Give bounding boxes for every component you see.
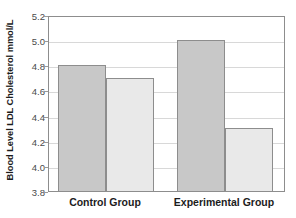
y-axis-tick-labels: 3.84.04.24.44.64.85.05.2 <box>20 0 48 218</box>
bars-layer <box>49 17 284 191</box>
bar <box>58 65 106 191</box>
y-tick-mark <box>44 167 48 168</box>
x-axis-category-label: Control Group <box>69 196 141 208</box>
x-axis-category-label: Experimental Group <box>174 196 274 208</box>
bar <box>225 128 273 191</box>
bar-chart: Blood Level LDL Cholesterol mmol/L 3.84.… <box>0 0 296 218</box>
y-tick-mark <box>44 192 48 193</box>
x-axis-category-labels: Control GroupExperimental Group <box>48 194 285 216</box>
plot-area <box>48 16 285 192</box>
y-tick-mark <box>44 16 48 17</box>
y-tick-mark <box>44 117 48 118</box>
y-axis-title-text: Blood Level LDL Cholesterol mmol/L <box>5 20 15 181</box>
y-tick-mark <box>44 142 48 143</box>
y-tick-mark <box>44 66 48 67</box>
bar <box>177 40 225 191</box>
y-axis-title: Blood Level LDL Cholesterol mmol/L <box>0 0 20 200</box>
y-tick-mark <box>44 41 48 42</box>
bar <box>106 78 154 191</box>
y-tick-mark <box>44 91 48 92</box>
